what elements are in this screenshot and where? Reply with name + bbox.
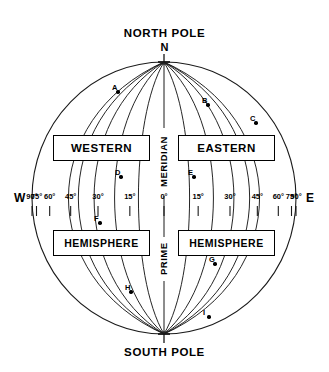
point-dot-b	[206, 103, 209, 106]
south-pole-title: SOUTH POLE	[0, 346, 329, 358]
point-dot-a	[116, 90, 119, 93]
point-dot-f	[98, 221, 101, 224]
label-box-eastern: EASTERN	[178, 135, 275, 161]
point-dot-e	[192, 175, 195, 178]
longitude-label-east-15: 15°	[185, 192, 211, 201]
north-pole-letter: N	[0, 41, 329, 53]
longitude-label-prime: 0°	[151, 192, 177, 201]
meridian-label: MERIDIAN	[158, 128, 170, 196]
longitude-label-west-45: 45°	[58, 192, 84, 201]
longitude-label-east-90: 90°	[283, 192, 309, 201]
label-box-hemisphere-east: HEMISPHERE	[178, 230, 275, 256]
prime-label: PRIME	[158, 237, 170, 281]
point-dot-c	[254, 121, 257, 124]
label-box-hemisphere-west: HEMISPHERE	[53, 230, 150, 256]
point-dot-h	[129, 290, 132, 293]
point-label-i: I	[203, 308, 205, 317]
point-dot-g	[213, 262, 216, 265]
label-box-western: WESTERN	[53, 135, 150, 161]
longitude-label-west-15: 15°	[117, 192, 143, 201]
globe-diagram: NORTH POLE N SOUTH POLE WESTERN EASTERN …	[0, 0, 329, 372]
point-dot-i	[207, 315, 210, 318]
north-pole-title: NORTH POLE	[0, 27, 329, 39]
longitude-label-east-30: 30°	[217, 192, 243, 201]
longitude-label-west-30: 30°	[85, 192, 111, 201]
point-dot-d	[119, 175, 122, 178]
